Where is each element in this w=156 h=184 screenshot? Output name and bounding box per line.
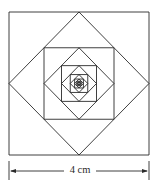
square-level-1 — [9, 12, 149, 155]
arrow-left-icon — [10, 169, 16, 173]
square-level-5 — [62, 66, 97, 102]
square-level-13 — [78, 82, 80, 84]
square-level-8 — [75, 79, 84, 88]
square-level-6 — [70, 75, 88, 93]
square-level-2 — [44, 48, 114, 120]
square-level-7 — [70, 75, 88, 93]
square-level-9 — [75, 79, 84, 88]
nested-squares-diagram — [0, 0, 156, 184]
square-level-4 — [62, 66, 97, 102]
dimension-label: 4 cm — [64, 163, 96, 177]
nested-squares — [9, 12, 149, 155]
arrow-right-icon — [142, 169, 148, 173]
square-level-0 — [9, 12, 149, 155]
square-level-3 — [44, 48, 114, 120]
